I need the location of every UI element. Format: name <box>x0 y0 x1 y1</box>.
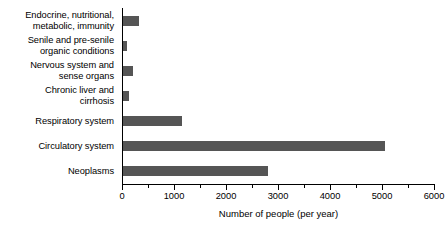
x-axis-minor-tick <box>148 185 149 188</box>
x-axis-minor-tick <box>200 185 201 188</box>
x-axis-tick-label: 1000 <box>164 191 185 202</box>
bar <box>122 141 385 151</box>
x-axis-minor-tick <box>304 185 305 188</box>
category-label: Neoplasms <box>0 159 118 184</box>
category-label: Chronic liver and cirrhosis <box>0 83 118 108</box>
y-axis-line <box>122 8 123 184</box>
x-axis-major-tick <box>174 185 175 190</box>
x-axis-major-tick <box>330 185 331 190</box>
bar-row <box>122 33 434 58</box>
bar-row <box>122 109 434 134</box>
bar <box>122 116 182 126</box>
bar-row <box>122 83 434 108</box>
category-label: Nervous system and sense organs <box>0 58 118 83</box>
x-axis-tick-label: 2000 <box>216 191 237 202</box>
bar-row <box>122 8 434 33</box>
category-axis-labels: Endocrine, nutritional, metabolic, immun… <box>0 8 118 184</box>
category-label: Circulatory system <box>0 134 118 159</box>
x-axis-major-tick <box>122 185 123 190</box>
bar-chart: Endocrine, nutritional, metabolic, immun… <box>0 0 446 235</box>
category-label: Senile and pre-senile organic conditions <box>0 33 118 58</box>
plot-area <box>122 8 434 184</box>
x-axis-major-tick <box>278 185 279 190</box>
x-axis-tick-label: 5000 <box>372 191 393 202</box>
bar <box>122 91 129 101</box>
bar-row <box>122 159 434 184</box>
x-axis-major-tick <box>434 185 435 190</box>
bar <box>122 166 268 176</box>
x-axis-major-tick <box>226 185 227 190</box>
bar <box>122 66 133 76</box>
x-axis-tick-label: 0 <box>119 191 124 202</box>
x-axis-tick-label: 3000 <box>268 191 289 202</box>
bar-row <box>122 58 434 83</box>
x-axis-minor-tick <box>252 185 253 188</box>
category-label: Respiratory system <box>0 109 118 134</box>
x-axis-tick-label: 4000 <box>320 191 341 202</box>
bar-series <box>122 8 434 184</box>
x-axis-tick-label: 6000 <box>424 191 445 202</box>
category-label: Endocrine, nutritional, metabolic, immun… <box>0 8 118 33</box>
x-axis-minor-tick <box>408 185 409 188</box>
bar <box>122 16 139 26</box>
bar-row <box>122 134 434 159</box>
x-axis-major-tick <box>382 185 383 190</box>
x-axis-title: Number of people (per year) <box>122 208 435 220</box>
x-axis-minor-tick <box>356 185 357 188</box>
